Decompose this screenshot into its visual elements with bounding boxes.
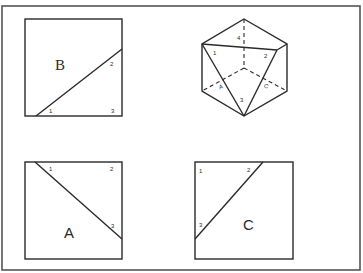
face-label-c: C [263, 82, 270, 89]
face-label-a: A [218, 83, 224, 90]
corner-label-c-1: 1 [199, 168, 203, 174]
corner-label-b-2: 2 [110, 61, 114, 67]
corner-label-c-3: 3 [199, 222, 203, 228]
vertex-label-4: 4 [237, 35, 241, 41]
cut-edge-left [202, 44, 244, 116]
diagram-canvas: B 1 2 3 4 1 2 3 A C A 1 2 3 C [0, 0, 363, 273]
label-b: B [55, 57, 65, 73]
diagonal-cut-b [36, 49, 122, 116]
panel-solid: 4 1 2 3 A C [202, 19, 287, 116]
square-a [25, 162, 122, 259]
corner-label-a-2: 2 [110, 166, 114, 172]
corner-label-b-3: 3 [111, 108, 115, 114]
panel-a: A 1 2 3 [25, 162, 122, 259]
panel-b: B 1 2 3 [25, 19, 122, 116]
cut-edge-corner [277, 44, 287, 50]
label-c: C [243, 216, 254, 233]
corner-label-a-1: 1 [49, 166, 53, 172]
corner-label-c-2: 2 [247, 167, 251, 173]
square-c [195, 162, 293, 259]
corner-label-b-1: 1 [49, 108, 53, 114]
square-b [25, 19, 122, 116]
outer-frame [2, 6, 360, 270]
corner-label-a-3: 3 [111, 223, 115, 229]
vertex-label-3: 3 [240, 97, 244, 103]
panel-c: C 1 2 3 [195, 162, 293, 259]
label-a: A [64, 224, 74, 241]
diagonal-cut-a [35, 162, 122, 239]
vertex-label-2: 2 [264, 53, 268, 59]
vertex-label-1: 1 [213, 50, 217, 56]
